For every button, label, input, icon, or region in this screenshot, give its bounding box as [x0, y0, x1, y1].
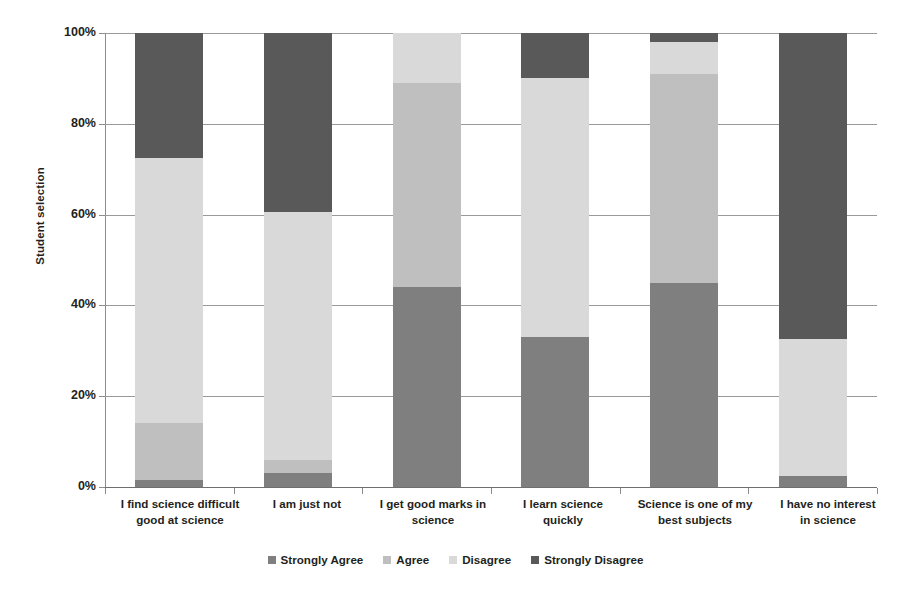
legend-item-disagree[interactable]: Disagree [449, 553, 511, 566]
y-tick-label-100: 100% [26, 25, 96, 39]
bar-segment-agree [393, 83, 461, 287]
stacked-bar-chart: Student selection 100%80%60%40%20%0% I f… [0, 0, 911, 589]
legend-item-agree[interactable]: Agree [383, 553, 429, 566]
bar-segment-strongly-agree [264, 473, 332, 487]
bar-3 [393, 33, 461, 487]
category-label-line-1: I am just not [248, 496, 366, 512]
bar-segment-strongly-agree [393, 287, 461, 487]
x-category-label-1: I find science difficultgood at science [100, 496, 260, 527]
bar-segment-disagree [650, 42, 718, 74]
x-tick-mark-3 [491, 488, 492, 494]
y-tick-label-40: 40% [26, 297, 96, 311]
legend-label: Strongly Agree [281, 553, 364, 566]
x-category-label-2: I am just not [248, 496, 366, 512]
bar-5 [650, 33, 718, 487]
bar-1 [135, 33, 203, 487]
category-label-line-2: quickly [500, 512, 626, 528]
bar-segment-disagree [521, 78, 589, 337]
y-tick-label-0: 0% [26, 479, 96, 493]
x-tick-mark-0 [105, 488, 106, 494]
x-tick-mark-1 [234, 488, 235, 494]
bar-segment-agree [650, 74, 718, 283]
category-label-line-2: science [360, 512, 506, 528]
y-tick-label-80: 80% [26, 116, 96, 130]
legend-swatch-icon [383, 556, 391, 564]
x-tick-mark-2 [362, 488, 363, 494]
bar-segment-strongly-agree [650, 283, 718, 487]
legend-label: Disagree [462, 553, 511, 566]
category-label-line-1: Science is one of my [620, 496, 770, 512]
bar-segment-strongly-disagree [650, 33, 718, 42]
x-tick-mark-6 [877, 488, 878, 494]
bar-segment-disagree [264, 212, 332, 459]
category-label-line-2: good at science [100, 512, 260, 528]
category-label-line-1: I get good marks in [360, 496, 506, 512]
legend-swatch-icon [268, 556, 276, 564]
bar-segment-disagree [393, 33, 461, 83]
legend-item-strongly-agree[interactable]: Strongly Agree [268, 553, 364, 566]
gridline-20 [105, 396, 877, 397]
bar-6 [779, 33, 847, 487]
x-tick-mark-4 [620, 488, 621, 494]
bar-segment-strongly-disagree [264, 33, 332, 212]
legend-label: Agree [396, 553, 429, 566]
x-tick-mark-5 [748, 488, 749, 494]
bar-segment-strongly-agree [779, 476, 847, 487]
gridline-40 [105, 305, 877, 306]
category-label-line-1: I find science difficult [100, 496, 260, 512]
x-category-label-5: Science is one of mybest subjects [620, 496, 770, 527]
bar-segment-agree [135, 423, 203, 480]
legend-item-strongly-disagree[interactable]: Strongly Disagree [531, 553, 643, 566]
y-tick-label-20: 20% [26, 388, 96, 402]
chart-legend: Strongly AgreeAgreeDisagreeStrongly Disa… [0, 553, 911, 566]
legend-swatch-icon [531, 556, 539, 564]
bar-2 [264, 33, 332, 487]
x-category-label-3: I get good marks inscience [360, 496, 506, 527]
x-category-label-6: I have no interestin science [760, 496, 896, 527]
plot-area [105, 33, 877, 487]
bar-segment-agree [264, 460, 332, 474]
bar-segment-strongly-disagree [521, 33, 589, 78]
bar-4 [521, 33, 589, 487]
x-category-label-4: I learn sciencequickly [500, 496, 626, 527]
category-label-line-2: best subjects [620, 512, 770, 528]
category-label-line-2: in science [760, 512, 896, 528]
legend-label: Strongly Disagree [544, 553, 643, 566]
y-tick-label-60: 60% [26, 207, 96, 221]
bar-segment-strongly-disagree [135, 33, 203, 158]
gridline-80 [105, 124, 877, 125]
gridline-100 [105, 33, 877, 34]
category-label-line-1: I have no interest [760, 496, 896, 512]
legend-swatch-icon [449, 556, 457, 564]
bar-segment-strongly-agree [521, 337, 589, 487]
bar-segment-disagree [135, 158, 203, 424]
bar-segment-strongly-agree [135, 480, 203, 487]
bar-segment-strongly-disagree [779, 33, 847, 339]
category-label-line-1: I learn science [500, 496, 626, 512]
bar-segment-disagree [779, 339, 847, 475]
gridline-60 [105, 215, 877, 216]
